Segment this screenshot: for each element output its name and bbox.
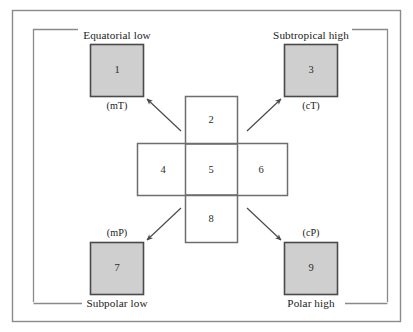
cell-number-6: 6 (258, 165, 263, 176)
box-number-7: 7 (114, 263, 119, 274)
box-number-3: 3 (308, 65, 313, 76)
region-label-subpolar-low: Subpolar low (86, 298, 147, 309)
cell-number-8: 8 (208, 214, 213, 225)
arrow-to-box-9 (247, 208, 281, 240)
box-number-9: 9 (308, 263, 313, 274)
diagram-figure: Equatorial low 1 (mT) Subtropical high 3… (0, 0, 413, 332)
diagram-canvas (0, 0, 413, 332)
region-label-subtropical-high: Subtropical high (273, 30, 349, 41)
cell-number-2: 2 (208, 115, 213, 126)
airmass-code-ct: (cT) (302, 101, 320, 111)
cell-number-5: 5 (208, 165, 213, 176)
arrow-to-box-3 (247, 99, 281, 131)
bracket-top-left (34, 30, 79, 303)
arrow-to-box-7 (147, 208, 181, 240)
box-number-1: 1 (114, 65, 119, 76)
arrow-to-box-1 (147, 99, 181, 131)
airmass-code-cp: (cP) (303, 228, 320, 238)
airmass-code-mp: (mP) (107, 228, 127, 238)
bracket-top-right (352, 30, 388, 303)
region-label-polar-high: Polar high (287, 298, 334, 309)
cell-number-4: 4 (160, 165, 165, 176)
airmass-code-mt: (mT) (107, 101, 128, 111)
region-label-equatorial-low: Equatorial low (83, 30, 151, 41)
